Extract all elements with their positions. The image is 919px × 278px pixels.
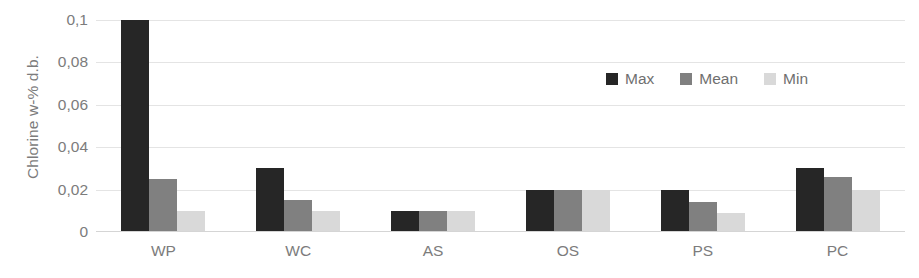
bar (824, 177, 852, 232)
legend-item[interactable]: Mean (680, 70, 738, 88)
x-axis-tick-label: WP (96, 238, 231, 266)
bar-group (500, 20, 635, 232)
bar (391, 211, 419, 232)
y-axis-tick-label: 0,1 (2, 11, 88, 29)
y-axis-tick-label: 0,04 (2, 138, 88, 156)
legend-swatch-icon (764, 73, 776, 85)
x-axis-tick-label: PS (635, 238, 770, 266)
bar-group (366, 20, 501, 232)
y-axis-tick-label: 0,06 (2, 96, 88, 114)
legend: MaxMeanMin (606, 70, 808, 88)
legend-swatch-icon (680, 73, 692, 85)
legend-label: Max (625, 70, 654, 88)
bar (717, 213, 745, 232)
legend-item[interactable]: Min (764, 70, 808, 88)
bar-groups (96, 20, 905, 232)
bar (796, 168, 824, 232)
bar (256, 168, 284, 232)
bar-group (231, 20, 366, 232)
bar (121, 20, 149, 232)
legend-swatch-icon (606, 73, 618, 85)
bar (284, 200, 312, 232)
plot-area (96, 20, 905, 232)
x-axis-tick-label: WC (231, 238, 366, 266)
legend-label: Min (783, 70, 808, 88)
x-axis-tick-label: AS (366, 238, 501, 266)
bar (177, 211, 205, 232)
bar-group (770, 20, 905, 232)
x-axis-tick-labels: WPWCASOSPSPC (96, 238, 905, 266)
y-axis-tick-label: 0,08 (2, 53, 88, 71)
bar (149, 179, 177, 232)
bar-group (635, 20, 770, 232)
x-axis-tick-label: OS (500, 238, 635, 266)
bar-group (96, 20, 231, 232)
bar (689, 202, 717, 232)
bar (447, 211, 475, 232)
bar (312, 211, 340, 232)
bar (852, 190, 880, 232)
bar (554, 190, 582, 232)
legend-item[interactable]: Max (606, 70, 654, 88)
y-axis-tick-labels: 00,020,040,060,080,1 (0, 20, 88, 232)
bar (582, 190, 610, 232)
axis-baseline (96, 231, 905, 232)
bar (526, 190, 554, 232)
bar (419, 211, 447, 232)
bar (661, 190, 689, 232)
legend-label: Mean (699, 70, 738, 88)
y-axis-tick-label: 0 (2, 223, 88, 241)
y-axis-tick-label: 0,02 (2, 181, 88, 199)
chlorine-bar-chart: Chlorine w-% d.b. 00,020,040,060,080,1 W… (0, 0, 919, 278)
x-axis-tick-label: PC (770, 238, 905, 266)
